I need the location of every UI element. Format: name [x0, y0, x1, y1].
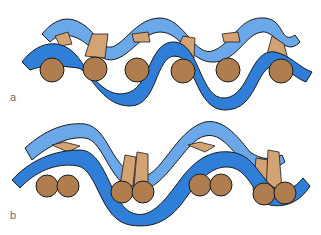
rod-b-6 — [210, 174, 232, 196]
panel-label-b: b — [10, 209, 16, 221]
panel-b — [12, 122, 310, 226]
rod-b-5 — [189, 174, 211, 196]
rod-b-4 — [132, 181, 154, 203]
rod-b-1 — [36, 175, 58, 197]
rod-b-2 — [57, 175, 79, 197]
panel-a — [22, 18, 312, 110]
rod-b-7 — [253, 183, 275, 205]
weave-diagram — [0, 0, 321, 235]
rod-a-5 — [216, 58, 240, 82]
rod-a-4 — [171, 59, 195, 83]
rod-b-8 — [274, 182, 296, 204]
rod-a-6 — [269, 59, 293, 83]
rod-a-3 — [125, 58, 149, 82]
panel-label-a: a — [10, 91, 16, 103]
dark-band-a — [22, 42, 312, 110]
rod-b-3 — [111, 181, 133, 203]
rod-a-2 — [83, 57, 107, 81]
rod-a-1 — [40, 58, 64, 82]
